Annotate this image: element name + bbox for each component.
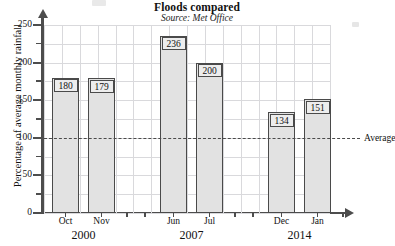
- scan-artifact-top: [92, 0, 106, 6]
- plot-area: 180179236200134151 Average: [44, 25, 330, 213]
- gridline-vertical: [80, 25, 81, 213]
- bar: [52, 78, 79, 213]
- bar: [268, 112, 295, 213]
- gridline-vertical: [187, 25, 188, 213]
- gridline-vertical: [44, 25, 45, 213]
- y-tick-label: 50: [4, 170, 32, 180]
- average-label: Average: [364, 133, 395, 143]
- bar-value-label: 180: [54, 79, 78, 92]
- bar-value-label: 200: [198, 64, 222, 77]
- x-tick-minor: [144, 212, 146, 217]
- x-tick-minor: [234, 212, 236, 217]
- x-year-label: 2007: [167, 229, 217, 242]
- y-tick-major: [33, 212, 44, 214]
- bar-value-label: 134: [270, 114, 294, 127]
- chart-subtitle: Source: Met Office: [112, 13, 282, 24]
- gridline-vertical: [133, 25, 134, 213]
- x-month-label: Jun: [154, 216, 194, 227]
- bar-value-label: 236: [162, 37, 186, 50]
- y-tick-label: 200: [4, 58, 32, 68]
- y-tick-major: [33, 137, 44, 139]
- chart-title: Floods compared: [112, 1, 282, 13]
- y-tick-major: [33, 24, 44, 26]
- gridline-vertical: [241, 25, 242, 213]
- average-line: [44, 138, 360, 139]
- x-year-label: 2000: [59, 229, 109, 242]
- gridline-vertical: [116, 25, 117, 213]
- y-tick-major: [33, 174, 44, 176]
- x-month-label: Oct: [46, 216, 86, 227]
- x-month-label: Jul: [190, 216, 230, 227]
- y-tick-minor: [36, 193, 44, 195]
- x-month-label: Nov: [82, 216, 122, 227]
- gridline-horizontal: [44, 213, 330, 214]
- y-tick-label: 0: [4, 208, 32, 218]
- y-tick-label: 100: [4, 133, 32, 143]
- y-tick-major: [33, 99, 44, 101]
- bar: [88, 78, 115, 213]
- y-tick-minor: [36, 80, 44, 82]
- bar: [304, 99, 331, 213]
- bar-value-label: 179: [90, 80, 114, 93]
- gridline-vertical: [151, 25, 152, 213]
- bar: [160, 36, 187, 214]
- x-tick-minor: [126, 212, 128, 217]
- x-month-label: Dec: [262, 216, 302, 227]
- y-tick-minor: [36, 43, 44, 45]
- scan-artifact-right: [352, 22, 359, 27]
- y-tick-major: [33, 62, 44, 64]
- x-tick-minor: [252, 212, 254, 217]
- bar-value-label: 151: [306, 101, 330, 114]
- x-year-label: 2014: [275, 229, 325, 242]
- y-tick-minor: [36, 118, 44, 120]
- x-tick-minor: [342, 212, 344, 217]
- y-tick-minor: [36, 156, 44, 158]
- y-tick-label: 150: [4, 95, 32, 105]
- y-tick-label: 250: [4, 20, 32, 30]
- x-axis-arrow-icon: [345, 208, 354, 218]
- x-month-label: Jan: [298, 216, 338, 227]
- gridline-vertical: [259, 25, 260, 213]
- y-axis-tick-labels: 050100150200250: [0, 0, 32, 246]
